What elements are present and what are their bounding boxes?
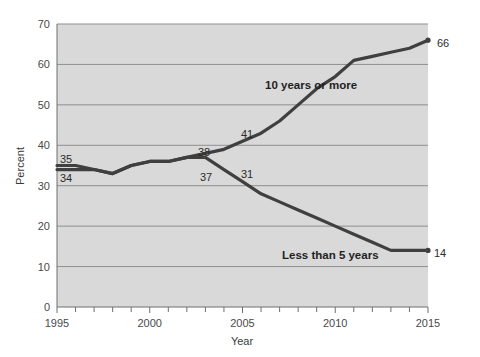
x-axis-title: Year <box>231 335 254 347</box>
y-tick-label-60: 60 <box>38 58 50 70</box>
x-tick-label-2010: 2010 <box>323 317 347 329</box>
value-label-35: 35 <box>60 153 72 165</box>
y-tick-label-40: 40 <box>38 139 50 151</box>
value-label-14: 14 <box>434 247 446 259</box>
value-label-34: 34 <box>60 172 72 184</box>
value-label-66: 66 <box>437 37 449 49</box>
y-tick-label-30: 30 <box>38 180 50 192</box>
y-tick-label-70: 70 <box>38 18 50 30</box>
x-tick-label-2015: 2015 <box>416 317 440 329</box>
value-label-41: 41 <box>241 128 253 140</box>
line-chart: 010203040506070 19952000200520102015 Per… <box>0 0 480 357</box>
chart-figure: 010203040506070 19952000200520102015 Per… <box>0 0 480 357</box>
y-tick-label-50: 50 <box>38 99 50 111</box>
y-tick-label-0: 0 <box>44 301 50 313</box>
value-label-37: 37 <box>200 171 212 183</box>
plot-background <box>57 24 428 307</box>
series-endpoint-0 <box>425 38 430 43</box>
value-label-31: 31 <box>241 168 253 180</box>
y-tick-label-10: 10 <box>38 261 50 273</box>
y-axis-title: Percent <box>14 147 26 185</box>
series-label-ten-years-or-more: 10 years or more <box>265 79 357 91</box>
series-label-less-than-5-years: Less than 5 years <box>282 249 379 261</box>
x-tick-label-2000: 2000 <box>138 317 162 329</box>
y-tick-label-20: 20 <box>38 220 50 232</box>
value-label-38: 38 <box>198 146 210 158</box>
x-tick-label-2005: 2005 <box>230 317 254 329</box>
series-endpoint-1 <box>425 248 430 253</box>
x-tick-label-1995: 1995 <box>45 317 69 329</box>
